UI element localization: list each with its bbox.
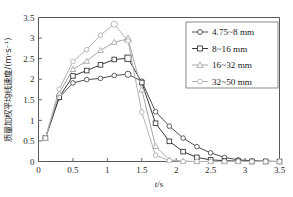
data-point-marker bbox=[167, 139, 172, 144]
y-axis-title: 质量加权平均线速度/(m·s⁻¹) bbox=[3, 37, 13, 141]
legend-label: 16~32 mm bbox=[212, 60, 252, 70]
data-point-marker bbox=[98, 63, 103, 68]
y-tick-label: 0.5 bbox=[23, 136, 35, 146]
data-point-marker bbox=[153, 121, 158, 126]
data-point-marker bbox=[71, 74, 76, 79]
data-point-marker bbox=[198, 46, 203, 51]
x-tick-label: 3.5 bbox=[274, 165, 286, 175]
data-point-marker bbox=[153, 153, 158, 158]
data-point-marker bbox=[153, 109, 158, 114]
data-point-marker bbox=[198, 30, 203, 35]
data-point-marker bbox=[277, 159, 282, 164]
data-point-marker bbox=[71, 81, 76, 86]
axes bbox=[39, 18, 280, 162]
data-point-marker bbox=[263, 159, 268, 164]
data-point-marker bbox=[236, 159, 241, 164]
data-point-marker bbox=[57, 87, 62, 92]
data-point-marker bbox=[208, 151, 213, 156]
x-tick-label: 1 bbox=[105, 165, 110, 175]
data-point-marker bbox=[84, 77, 89, 82]
x-tick-label: 0.5 bbox=[67, 165, 79, 175]
legend-label: 4.75~8 mm bbox=[212, 27, 254, 37]
y-tick-label: 0 bbox=[30, 157, 35, 167]
x-tick-label: 1.5 bbox=[136, 165, 148, 175]
data-point-marker bbox=[43, 136, 48, 141]
data-point-marker bbox=[181, 136, 186, 141]
chart-figure: 00.511.522.533.500.511.522.533.5t/s质量加权平… bbox=[0, 0, 293, 197]
data-point-marker bbox=[112, 73, 117, 78]
data-point-marker bbox=[112, 57, 117, 62]
data-point-marker bbox=[84, 68, 89, 73]
data-point-marker bbox=[250, 159, 255, 164]
data-point-marker bbox=[222, 159, 227, 164]
series-line bbox=[45, 39, 279, 162]
data-point-marker bbox=[126, 39, 131, 44]
y-tick-label: 1.5 bbox=[23, 95, 35, 105]
data-point-marker bbox=[84, 47, 89, 52]
series-3 bbox=[43, 35, 283, 164]
data-point-marker bbox=[167, 158, 172, 163]
data-point-marker bbox=[195, 159, 200, 164]
x-axis-title: t/s bbox=[155, 179, 164, 189]
legend-item-3[interactable]: 16~32 mm bbox=[192, 60, 252, 70]
data-point-marker bbox=[98, 48, 104, 53]
line-chart: 00.511.522.533.500.511.522.533.5t/s质量加权平… bbox=[0, 0, 293, 197]
data-point-marker bbox=[208, 159, 213, 164]
y-tick-label: 3.5 bbox=[23, 13, 35, 23]
series-2 bbox=[43, 55, 282, 164]
data-point-marker bbox=[139, 110, 144, 115]
data-point-marker bbox=[181, 159, 186, 164]
x-tick-label: 0 bbox=[36, 165, 41, 175]
legend-label: 32~50 mm bbox=[212, 77, 252, 87]
data-point-marker bbox=[98, 76, 103, 81]
plot-frame bbox=[39, 18, 280, 162]
y-tick-label: 1 bbox=[30, 116, 35, 126]
series-4 bbox=[43, 21, 282, 164]
series-line bbox=[45, 58, 279, 161]
data-point-marker bbox=[111, 21, 117, 27]
data-point-marker bbox=[98, 33, 103, 38]
series-line bbox=[45, 74, 279, 161]
data-point-marker bbox=[181, 149, 186, 154]
legend-item-1[interactable]: 4.75~8 mm bbox=[192, 27, 254, 37]
data-point-marker bbox=[195, 144, 200, 149]
data-point-marker bbox=[125, 55, 131, 61]
data-series-group bbox=[43, 21, 283, 164]
y-tick-label: 2.5 bbox=[23, 54, 35, 64]
data-point-marker bbox=[70, 66, 76, 71]
x-tick-label: 3 bbox=[243, 165, 248, 175]
x-tick-label: 2.5 bbox=[205, 165, 217, 175]
data-point-marker bbox=[198, 79, 203, 84]
legend-item-4[interactable]: 32~50 mm bbox=[192, 77, 252, 87]
legend-item-2[interactable]: 8~16 mm bbox=[192, 44, 247, 54]
y-tick-label: 3 bbox=[30, 33, 35, 43]
y-tick-label: 2 bbox=[30, 74, 35, 84]
data-point-marker bbox=[125, 71, 131, 77]
legend-label: 8~16 mm bbox=[212, 44, 247, 54]
data-point-marker bbox=[71, 59, 76, 64]
chart-legend[interactable]: 4.75~8 mm8~16 mm16~32 mm32~50 mm bbox=[186, 22, 278, 88]
data-point-marker bbox=[167, 124, 172, 129]
x-tick-label: 2 bbox=[174, 165, 179, 175]
